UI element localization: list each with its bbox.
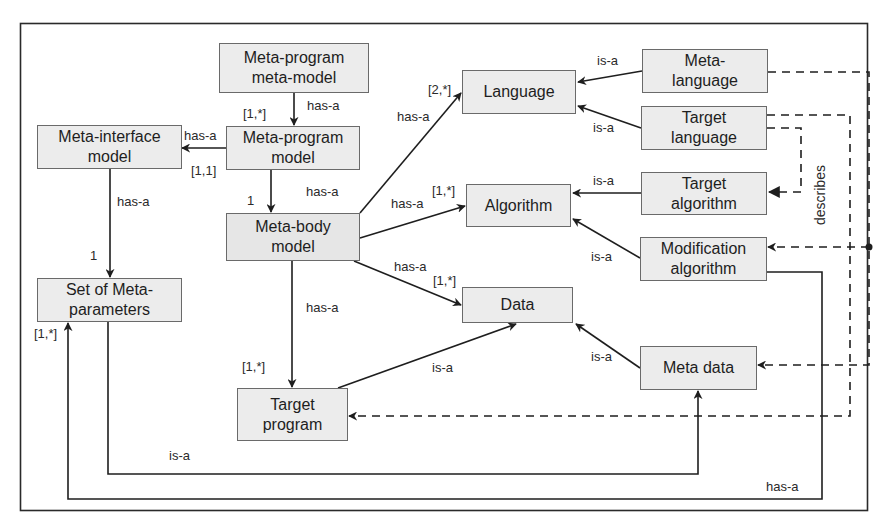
label-mpm-mim-mult: [1,1]	[191, 164, 216, 178]
node-meta-program-model[interactable]: Meta-programmodel	[226, 126, 360, 170]
label-md-is-a: is-a	[591, 350, 612, 364]
label-mim-smp-mult: 1	[90, 249, 97, 263]
node-label: Target	[671, 108, 737, 128]
label-tl-is-a: is-a	[593, 121, 614, 135]
node-target-language[interactable]: Targetlanguage	[641, 106, 767, 150]
edge-ml-language	[578, 71, 642, 82]
label-mbm-data: has-a	[394, 260, 427, 274]
edge-describes-tl-ta	[767, 128, 801, 192]
node-label: Target	[263, 395, 323, 415]
node-label: meta-model	[244, 68, 344, 88]
label-mpmm-mpm-mult: [1,*]	[243, 107, 266, 121]
label-ma-smp-mult: [1,*]	[34, 327, 57, 341]
node-meta-body-model[interactable]: Meta-bodymodel	[226, 213, 360, 261]
node-meta-data[interactable]: Meta data	[640, 346, 757, 390]
node-label: Language	[483, 82, 554, 102]
node-set-of-meta-parameters[interactable]: Set of Meta-parameters	[37, 278, 182, 322]
label-smp-md-is-a: is-a	[169, 449, 190, 463]
node-label: algorithm	[661, 259, 746, 279]
node-label: Meta-body	[255, 217, 331, 237]
junction-dot	[866, 244, 873, 251]
label-ta-is-a: is-a	[593, 174, 614, 188]
node-label: language	[671, 128, 737, 148]
node-meta-program-meta-model[interactable]: Meta-programmeta-model	[219, 43, 369, 93]
meta-program-diagram: Meta-programmeta-model Meta-programmodel…	[0, 0, 896, 527]
label-tp-is-a: is-a	[432, 361, 453, 375]
node-label: Data	[501, 295, 535, 315]
node-algorithm[interactable]: Algorithm	[466, 184, 571, 227]
label-mpm-mbm-mult: 1	[247, 194, 254, 208]
label-mbm-language: has-a	[397, 110, 430, 124]
node-meta-language[interactable]: Meta-language	[642, 49, 768, 93]
edge-tp-data	[338, 324, 516, 388]
node-label: Modification	[661, 239, 746, 259]
node-meta-interface-model[interactable]: Meta-interfacemodel	[37, 125, 182, 169]
node-label: algorithm	[671, 194, 737, 214]
node-modification-algorithm[interactable]: Modificationalgorithm	[640, 237, 767, 281]
node-label: Set of Meta-	[66, 280, 153, 300]
node-label: Meta-	[672, 51, 738, 71]
node-label: Algorithm	[485, 196, 553, 216]
node-label: parameters	[66, 300, 153, 320]
label-mpm-mbm: has-a	[306, 185, 339, 199]
node-label: Meta-interface	[58, 127, 160, 147]
node-label: model	[58, 147, 160, 167]
label-ma-smp-has-a: has-a	[766, 480, 799, 494]
label-mbm-tp: has-a	[306, 301, 339, 315]
node-label: Target	[671, 174, 737, 194]
label-mbm-data-mult: [1,*]	[433, 274, 456, 288]
node-label: program	[263, 415, 323, 435]
node-label: Meta data	[663, 358, 734, 378]
label-mbm-tp-mult: [1,*]	[242, 360, 265, 374]
label-mim-smp: has-a	[117, 195, 150, 209]
label-mpmm-mpm: has-a	[307, 99, 340, 113]
label-ml-is-a: is-a	[597, 54, 618, 68]
label-mbm-language-mult: [2,*]	[428, 83, 451, 97]
node-label: model	[255, 237, 331, 257]
node-label: Meta-program	[244, 48, 344, 68]
node-language[interactable]: Language	[462, 70, 576, 114]
node-label: language	[672, 71, 738, 91]
node-label: model	[243, 148, 343, 168]
edge-smp-md	[108, 322, 698, 474]
label-mbm-algorithm-mult: [1,*]	[432, 184, 455, 198]
node-target-program[interactable]: Targetprogram	[237, 388, 348, 441]
label-mbm-algorithm: has-a	[391, 197, 424, 211]
label-describes: describes	[812, 165, 828, 225]
node-label: Meta-program	[243, 128, 343, 148]
label-mpm-mim: has-a	[184, 129, 217, 143]
node-data[interactable]: Data	[462, 287, 573, 323]
node-target-algorithm[interactable]: Targetalgorithm	[641, 172, 767, 215]
label-ma-is-a: is-a	[591, 250, 612, 264]
